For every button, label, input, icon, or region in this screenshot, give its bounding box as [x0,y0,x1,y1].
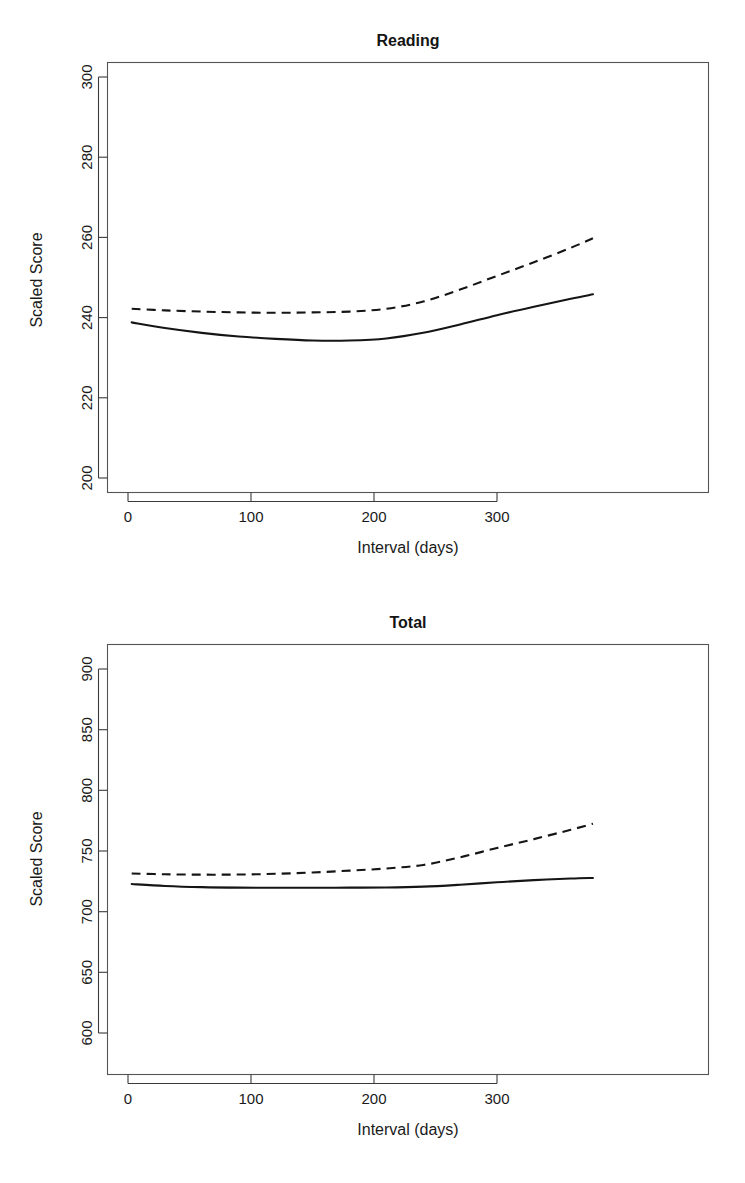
y-tick-labels: 900 850 800 750 700 650 600 [78,656,95,1045]
y-tick-label: 280 [78,145,95,170]
y-tick-label: 200 [78,465,95,490]
x-tick-label: 100 [238,1090,263,1107]
y-axis: 900 850 800 750 700 650 600 Scaled Score [28,656,108,1045]
x-tick-label: 100 [238,508,263,525]
y-tick-label: 300 [78,64,95,89]
figure-page: Reading 300 280 260 240 2 [0,0,745,1183]
y-tick-label: 220 [78,385,95,410]
y-tick-label: 260 [78,225,95,250]
plot-frame [108,645,709,1075]
y-tick-label: 850 [78,717,95,742]
x-tick-marks [128,493,497,502]
x-tick-marks [128,1075,497,1084]
x-tick-label: 0 [124,508,132,525]
x-axis-title: Interval (days) [357,1121,458,1138]
x-tick-label: 200 [361,1090,386,1107]
x-axis: 0 100 200 300 Interval (days) [124,1075,510,1139]
x-tick-label: 0 [124,1090,132,1107]
y-axis-title: Scaled Score [28,811,45,906]
y-tick-label: 900 [78,656,95,681]
y-tick-marks [99,77,108,478]
x-axis: 0 100 200 300 Interval (days) [124,493,510,557]
y-tick-labels: 300 280 260 240 220 200 [78,64,95,490]
chart-panel-total: Total 900 850 800 750 [0,591,745,1183]
y-tick-label: 700 [78,899,95,924]
x-tick-label: 200 [361,508,386,525]
x-tick-labels: 0 100 200 300 [124,1090,510,1107]
y-tick-marks [99,669,108,1033]
chart-title: Reading [376,32,439,49]
y-axis-title: Scaled Score [28,232,45,327]
chart-title: Total [389,614,426,631]
x-tick-labels: 0 100 200 300 [124,508,510,525]
series-line-solid [132,294,593,340]
reading-chart-svg: Reading 300 280 260 240 2 [0,0,745,592]
y-tick-label: 800 [78,778,95,803]
x-tick-label: 300 [484,508,509,525]
series-line-dashed [132,824,593,875]
x-tick-label: 300 [484,1090,509,1107]
series-line-solid [132,878,593,888]
series-line-dashed [132,238,593,313]
y-tick-label: 750 [78,838,95,863]
total-chart-svg: Total 900 850 800 750 [0,591,745,1183]
y-tick-label: 240 [78,305,95,330]
y-axis: 300 280 260 240 220 200 Scaled Score [28,64,108,490]
y-tick-label: 600 [78,1020,95,1045]
plot-frame [108,63,709,493]
y-tick-label: 650 [78,960,95,985]
x-axis-title: Interval (days) [357,539,458,556]
chart-panel-reading: Reading 300 280 260 240 2 [0,0,745,592]
